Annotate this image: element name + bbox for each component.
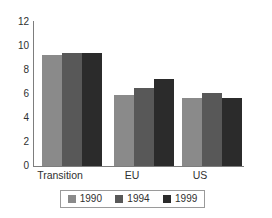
bar-transition-1994 xyxy=(62,53,82,166)
bar-transition-1990 xyxy=(42,55,62,166)
y-tick-label-2: 2 xyxy=(23,137,29,147)
bar-eu-1994 xyxy=(134,88,154,166)
y-tick-label-4: 4 xyxy=(23,113,29,123)
y-tick-label-8: 8 xyxy=(23,65,29,75)
y-tick-label-6: 6 xyxy=(23,89,29,99)
x-category-label-us: US xyxy=(152,169,248,182)
x-axis-line xyxy=(33,166,244,167)
plot-area xyxy=(34,22,243,166)
bar-transition-1999 xyxy=(82,53,102,166)
chart-legend: 1990 1994 1999 xyxy=(60,190,205,208)
legend-swatch-1994-icon xyxy=(115,195,123,203)
legend-entry-1994: 1994 xyxy=(115,194,149,204)
bar-us-1999 xyxy=(222,98,242,166)
legend-label-1994: 1994 xyxy=(127,194,149,204)
legend-entry-1990: 1990 xyxy=(68,194,102,204)
bar-eu-1999 xyxy=(154,79,174,166)
bar-chart: 12 10 8 6 4 2 0 Transition EU US xyxy=(0,0,272,218)
bar-us-1990 xyxy=(182,98,202,166)
y-tick-label-10: 10 xyxy=(18,41,29,51)
y-axis-tick-labels: 12 10 8 6 4 2 0 xyxy=(0,0,29,218)
legend-entry-1999: 1999 xyxy=(163,194,197,204)
bar-eu-1990 xyxy=(114,95,134,166)
y-tick-label-12: 12 xyxy=(18,17,29,27)
bar-us-1994 xyxy=(202,93,222,166)
legend-swatch-1990-icon xyxy=(68,195,76,203)
legend-label-1999: 1999 xyxy=(175,194,197,204)
legend-swatch-1999-icon xyxy=(163,195,171,203)
legend-label-1990: 1990 xyxy=(80,194,102,204)
